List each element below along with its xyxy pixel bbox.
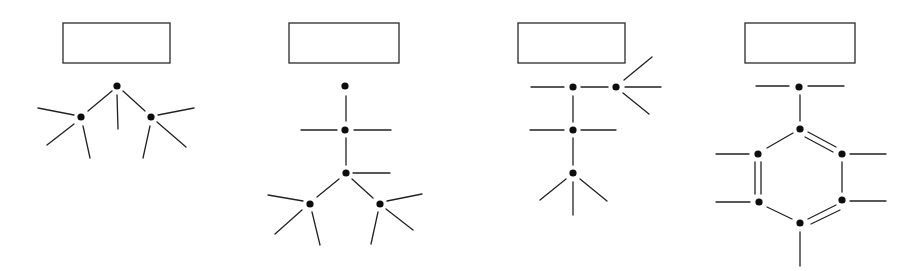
bond-line (623, 93, 649, 114)
structure-2 (268, 23, 422, 245)
atom-node (342, 169, 349, 176)
atom-node (376, 200, 383, 207)
bond-line (268, 195, 303, 201)
bond-line (808, 205, 836, 219)
bond-line (811, 210, 840, 224)
bond-line (767, 133, 793, 148)
bond-line (317, 179, 339, 197)
atom-node (113, 82, 120, 89)
bond-line (88, 91, 112, 111)
atom-node (569, 83, 576, 90)
bond-line (540, 179, 566, 200)
label-box (289, 23, 399, 63)
bond-line (580, 179, 607, 201)
atom-node (838, 150, 845, 157)
atom-node (755, 198, 762, 205)
atom-node (795, 83, 802, 90)
bond-line (624, 57, 652, 80)
atom-node (569, 126, 576, 133)
molecule-diagram (0, 0, 924, 271)
bond-line (275, 210, 302, 234)
atom-node (77, 113, 84, 120)
label-box (518, 23, 625, 63)
atom-node (569, 169, 576, 176)
bond-line (767, 207, 792, 219)
bond-line (386, 209, 413, 230)
bond-line (805, 137, 833, 152)
bond-line (387, 194, 422, 201)
bond-line (808, 132, 836, 147)
atom-node (796, 219, 803, 226)
bond-line (38, 108, 74, 115)
bond-line (83, 126, 90, 158)
bond-line (312, 212, 320, 245)
label-box (63, 23, 170, 63)
atom-node (796, 125, 803, 132)
bond-line (157, 122, 186, 147)
bond-line (117, 95, 118, 129)
bond-line (158, 108, 194, 115)
bond-line (352, 179, 373, 198)
bond-line (123, 91, 145, 111)
structure-4 (716, 23, 886, 266)
label-box (745, 23, 855, 63)
atom-node (341, 126, 348, 133)
bond-line (47, 124, 74, 145)
structure-1 (38, 23, 194, 158)
atom-node (838, 196, 845, 203)
atom-node (612, 83, 619, 90)
atom-node (754, 150, 761, 157)
atom-node (341, 82, 348, 89)
bond-line (143, 126, 150, 158)
atom-node (147, 113, 154, 120)
atom-node (306, 200, 313, 207)
structure-3 (518, 23, 661, 215)
bond-line (371, 212, 378, 244)
